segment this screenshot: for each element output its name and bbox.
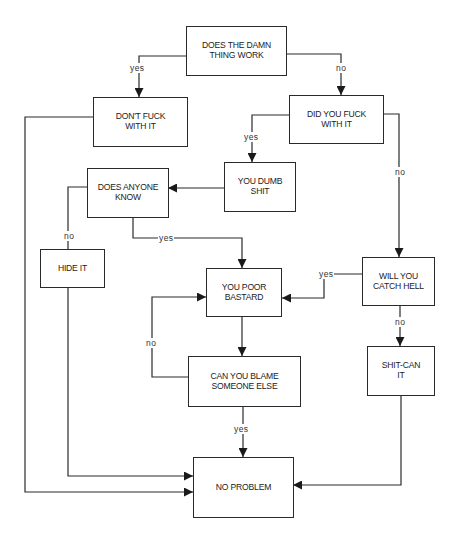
node-shit-can-it: SHIT-CAN IT bbox=[367, 346, 435, 396]
edge-label-catch-hell-no: no bbox=[394, 317, 406, 327]
edge-label-did-touch-no: no bbox=[394, 167, 406, 177]
flowchart: DOES THE DAMN THING WORK DON'T FUCK WITH… bbox=[0, 0, 457, 542]
node-does-anyone-know: DOES ANYONE KNOW bbox=[87, 168, 169, 218]
node-hide-it: HIDE IT bbox=[40, 249, 105, 288]
node-does-the-damn-thing-work: DOES THE DAMN THING WORK bbox=[186, 26, 287, 76]
edge-label-blame-no: no bbox=[145, 338, 157, 348]
edge-label-works-yes: yes bbox=[129, 63, 145, 73]
edge-label-anyone-know-no: no bbox=[63, 231, 75, 241]
node-can-you-blame-someone-else: CAN YOU BLAME SOMEONE ELSE bbox=[188, 356, 301, 407]
node-will-you-catch-hell: WILL YOU CATCH HELL bbox=[362, 257, 435, 306]
edge-label-anyone-know-yes: yes bbox=[158, 233, 174, 243]
edge-label-works-no: no bbox=[335, 63, 347, 73]
edge-label-catch-hell-yes: yes bbox=[318, 269, 334, 279]
node-no-problem: NO PROBLEM bbox=[193, 457, 294, 518]
node-you-poor-bastard: YOU POOR BASTARD bbox=[206, 268, 282, 317]
edge-label-blame-yes: yes bbox=[233, 424, 249, 434]
node-dont-fuck-with-it: DON'T FUCK WITH IT bbox=[93, 97, 188, 147]
node-you-dumb-shit: YOU DUMB SHIT bbox=[224, 162, 296, 212]
edge-label-did-touch-yes: yes bbox=[243, 132, 259, 142]
node-did-you-fuck-with-it: DID YOU FUCK WITH IT bbox=[289, 95, 384, 144]
